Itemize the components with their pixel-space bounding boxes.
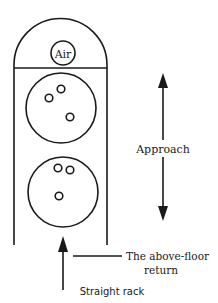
finger-hole (45, 94, 53, 102)
straight-rack-label: Straight rack (80, 286, 145, 297)
approach-label: Approach (135, 143, 190, 156)
thumb-hole (66, 113, 74, 121)
finger-hole (66, 166, 74, 174)
thumb-hole (55, 192, 63, 200)
return-label-line1: The above-floor (126, 250, 210, 262)
arrow-down-icon (158, 206, 168, 221)
finger-hole (54, 164, 62, 172)
ball-return-diagram: Air Approach The above-floor return Stra… (0, 0, 218, 303)
arrow-up-icon (58, 236, 68, 252)
bowling-ball-2 (28, 157, 98, 227)
return-label-line2: return (144, 264, 178, 276)
finger-hole (57, 85, 65, 93)
bowling-ball-1 (26, 73, 96, 143)
arrow-up-icon (158, 73, 168, 88)
air-label: Air (54, 48, 72, 61)
